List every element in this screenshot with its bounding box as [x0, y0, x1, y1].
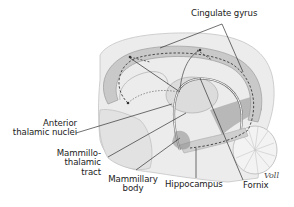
label-line: thalamic nuclei: [4, 128, 77, 137]
label-mammillary-body: Mammillary body: [104, 175, 162, 194]
label-hippocampus: Hippocampus: [165, 180, 223, 189]
label-fornix: Fornix: [243, 181, 269, 190]
artist-signature: Voll: [264, 171, 279, 180]
label-mammillothalamic-tract: Mammillo- thalamic tract: [40, 149, 101, 177]
diagram-canvas: Cingulate gyrus Anterior thalamic nuclei…: [0, 0, 294, 207]
label-cingulate-gyrus: Cingulate gyrus: [191, 9, 257, 18]
label-line: tract: [40, 168, 101, 177]
label-anterior-thalamic-nuclei: Anterior thalamic nuclei: [4, 119, 77, 138]
label-line: body: [104, 184, 162, 193]
